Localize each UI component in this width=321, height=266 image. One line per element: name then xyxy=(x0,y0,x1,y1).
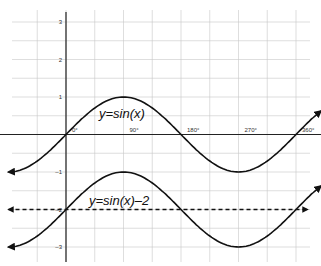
y-tick-label: –3 xyxy=(55,244,62,250)
sine-graph: 321–1–2–30°90°180°270°360°y=sin(x)y=sin(… xyxy=(0,0,321,266)
x-tick-label: 0° xyxy=(72,127,78,133)
equation-label-sin-minus-2: y=sin(x)–2 xyxy=(88,193,150,208)
axes xyxy=(0,12,321,262)
x-tick-label: 90° xyxy=(130,127,140,133)
y-tick-label: –1 xyxy=(55,169,62,175)
equation-label-sin: y=sin(x) xyxy=(98,106,145,121)
y-tick-label: –2 xyxy=(55,207,62,213)
x-tick-label: 270° xyxy=(245,127,258,133)
x-tick-label: 180° xyxy=(187,127,200,133)
x-tick-label: 360° xyxy=(302,127,315,133)
grid-lines xyxy=(12,10,310,262)
